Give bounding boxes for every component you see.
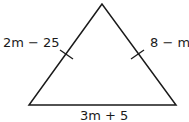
triangle-diagram: 2m − 25 8 − m 3m + 5 — [0, 0, 189, 122]
left-side-label: 2m − 25 — [3, 35, 60, 50]
triangle — [29, 4, 176, 105]
base-label: 3m + 5 — [80, 108, 128, 122]
right-side-label: 8 − m — [150, 35, 189, 50]
left-side-tick-mark — [60, 50, 73, 59]
